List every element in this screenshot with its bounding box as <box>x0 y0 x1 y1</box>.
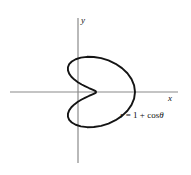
equation-equals: = <box>124 110 134 120</box>
polar-cardioid-figure: y x r = 1 + cosθ <box>0 0 191 175</box>
plot-canvas <box>0 0 191 175</box>
equation-annotation: r = 1 + cosθ <box>120 111 164 120</box>
equation-cos: cos <box>147 110 159 120</box>
equation-theta: θ <box>159 110 163 120</box>
x-axis-label: x <box>168 94 172 103</box>
y-axis-label: y <box>81 16 85 25</box>
equation-plus: + <box>138 110 148 120</box>
